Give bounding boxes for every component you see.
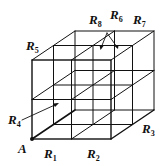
label-r5: R5	[25, 38, 39, 55]
front-face	[32, 60, 111, 139]
label-r6: R6	[109, 7, 123, 24]
label-r3: R3	[141, 121, 155, 138]
point-a-label: A	[17, 141, 27, 156]
label-r2: R2	[86, 146, 100, 163]
label-r4: R4	[7, 112, 21, 129]
label-r8: R8	[88, 12, 102, 29]
cube-diagram: A R1 R2 R3 R4 R5 R6 R7 R8	[0, 0, 162, 166]
point-a-dot	[30, 137, 34, 141]
label-r1: R1	[43, 146, 57, 163]
label-r7: R7	[132, 12, 146, 29]
